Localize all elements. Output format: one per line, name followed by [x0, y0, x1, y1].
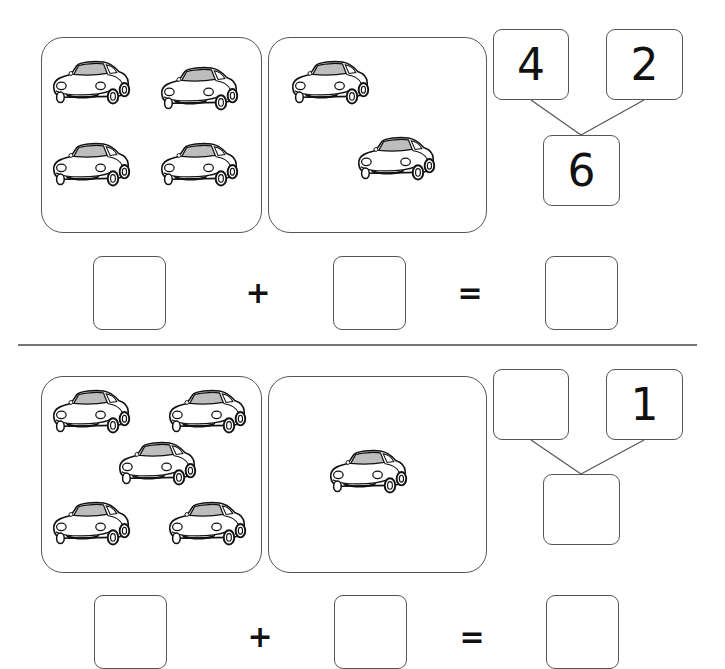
- problem-2-sum-box[interactable]: [546, 595, 619, 669]
- problem-1-addend-1-box[interactable]: [93, 256, 166, 330]
- equals-sign: =: [455, 278, 485, 308]
- car-icon: [164, 499, 250, 549]
- problem-2-left-picture-panel: [41, 376, 262, 573]
- car-icon: [48, 140, 134, 190]
- problem-2-addend-1-box[interactable]: [94, 595, 167, 669]
- car-icon: [48, 499, 134, 549]
- problem-1-bond-part-a[interactable]: 4: [493, 29, 569, 100]
- car-icon: [114, 439, 200, 489]
- problem-1-sum-box[interactable]: [545, 256, 618, 330]
- problem-2-bond-part-a[interactable]: [493, 369, 569, 440]
- car-icon: [325, 447, 411, 497]
- problem-2-bond-whole[interactable]: [543, 474, 620, 545]
- equals-sign: =: [457, 622, 487, 652]
- problem-1-left-picture-panel: [41, 37, 262, 233]
- problem-2-bond-part-b[interactable]: 1: [606, 369, 683, 440]
- problem-1-addend-2-box[interactable]: [333, 256, 406, 330]
- problem-1-bond-whole[interactable]: 6: [543, 135, 620, 206]
- car-icon: [164, 387, 250, 437]
- car-icon: [48, 387, 134, 437]
- car-icon: [287, 58, 373, 108]
- plus-sign: +: [245, 622, 275, 652]
- car-icon: [353, 134, 439, 184]
- problem-1-bond-part-b[interactable]: 2: [606, 29, 683, 100]
- problem-2-addend-2-box[interactable]: [334, 595, 407, 669]
- car-icon: [156, 64, 242, 114]
- section-divider: [18, 344, 697, 346]
- car-icon: [156, 140, 242, 190]
- problem-1-right-picture-panel: [268, 37, 487, 233]
- car-icon: [48, 58, 134, 108]
- problem-2-right-picture-panel: [268, 376, 487, 573]
- plus-sign: +: [243, 278, 273, 308]
